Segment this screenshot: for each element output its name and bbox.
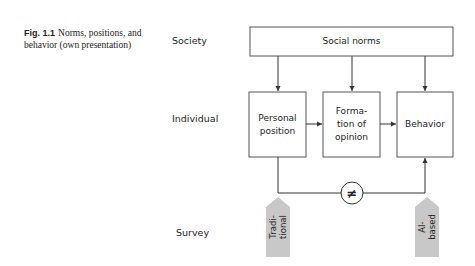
survey-traditional-label: Tradi- tional	[266, 202, 290, 252]
survey-ai-based-label: AI- based	[415, 202, 439, 252]
behavior-label: Behavior	[397, 92, 453, 157]
social-norms-label: Social norms	[250, 27, 453, 56]
not-equal-icon: ≠	[341, 182, 363, 204]
formation-of-opinion-label: Forma- tion of opinion	[323, 92, 380, 157]
personal-position-label: Personal position	[249, 92, 306, 157]
